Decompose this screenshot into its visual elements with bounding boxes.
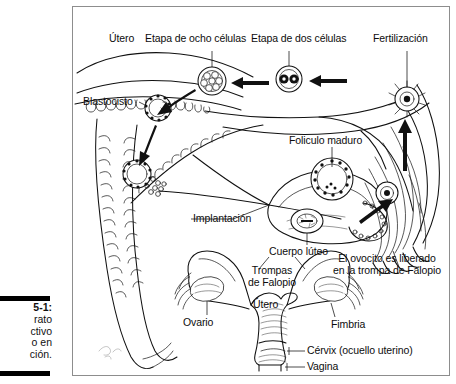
figure-frame: Útero Etapa de ocho células Etapa de dos… (72, 6, 450, 376)
label-implantacion: Implantación (193, 213, 251, 225)
label-cervix: Cérvix (ocuello uterino) (307, 345, 413, 357)
caption-rule-bottom (0, 371, 50, 376)
label-cuerpo-luteo: Cuerpo lúteo (269, 246, 328, 258)
label-blastocisto: Blastocisto (83, 96, 133, 108)
label-trompas-line1: Trompas (252, 264, 292, 276)
figure-page: 5-1: rato ctivo o en ción. (0, 0, 456, 384)
label-ovario: Ovario (183, 317, 213, 329)
label-trompas-line2: de Falopio (248, 276, 296, 288)
label-etapa-dos-celulas: Etapa de dos células (251, 33, 346, 45)
label-ovocito-liberado-line2: en la trompa de Falopio (333, 264, 441, 276)
caption-line-1: rato (0, 314, 52, 326)
label-utero-bottom: Útero (253, 299, 278, 311)
anatomy-illustration (73, 7, 449, 375)
figure-caption: 5-1: rato ctivo o en ción. (0, 302, 52, 361)
caption-column: 5-1: rato ctivo o en ción. (0, 0, 64, 384)
label-fertilizacion: Fertilización (373, 33, 428, 45)
label-utero-top: Útero (109, 33, 134, 45)
label-vagina: Vagina (307, 361, 338, 373)
label-fimbria: Fimbria (331, 319, 365, 331)
label-trompas-de-falopio: Trompas de Falopio (239, 265, 305, 288)
label-ovocito-liberado-line1: El ovocito es liberado (338, 252, 436, 264)
caption-line-4: ción. (0, 349, 52, 361)
label-foliculo-maduro: Foliculo maduro (289, 135, 362, 147)
label-ovocito-liberado: El ovocito es liberado en la trompa de F… (327, 253, 447, 276)
label-etapa-ocho-celulas: Etapa de ocho células (145, 33, 246, 45)
